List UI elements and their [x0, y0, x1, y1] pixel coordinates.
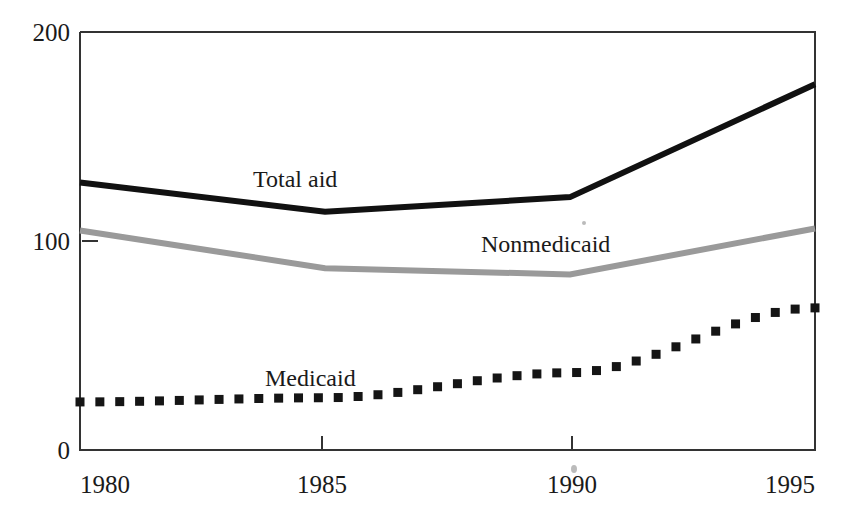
- medicaid-dot: [274, 394, 283, 403]
- medicaid-dot: [592, 366, 601, 375]
- medicaid-dot: [155, 396, 164, 405]
- series-label-nonmedicaid: Nonmedicaid: [481, 231, 610, 257]
- medicaid-dot: [135, 397, 144, 406]
- medicaid-dot: [493, 374, 502, 383]
- series-label-total-aid: Total aid: [253, 166, 337, 192]
- x-axis-ticks: [322, 436, 572, 450]
- medicaid-dot: [393, 388, 402, 397]
- medicaid-dot: [453, 379, 462, 388]
- x-axis-label-1995: 1995: [765, 471, 815, 498]
- series-label-medicaid: Medicaid: [265, 365, 356, 391]
- medicaid-dot: [771, 308, 780, 317]
- medicaid-dot: [234, 394, 243, 403]
- y-axis-label-0: 0: [58, 437, 71, 464]
- medicaid-dot: [195, 395, 204, 404]
- medicaid-dot: [612, 362, 621, 371]
- medicaid-dot: [552, 368, 561, 377]
- series-medicaid: [76, 303, 820, 406]
- series-total-aid-line: [80, 84, 815, 211]
- medicaid-dot: [751, 313, 760, 322]
- y-axis-label-200: 200: [33, 19, 71, 46]
- medicaid-dot: [115, 397, 124, 406]
- medicaid-dot: [334, 393, 343, 402]
- medicaid-dot: [294, 393, 303, 402]
- medicaid-dot: [314, 393, 323, 402]
- y-axis-label-100: 100: [33, 228, 71, 255]
- medicaid-dot: [572, 368, 581, 377]
- medicaid-dot: [433, 382, 442, 391]
- medicaid-dot: [691, 334, 700, 343]
- scan-speck: [571, 465, 577, 473]
- medicaid-dot: [373, 390, 382, 399]
- medicaid-dot: [254, 394, 263, 403]
- medicaid-dot: [731, 319, 740, 328]
- medicaid-dot: [671, 342, 680, 351]
- medicaid-dot: [532, 369, 541, 378]
- x-axis-label-1980: 1980: [80, 471, 130, 498]
- medicaid-dot: [473, 376, 482, 385]
- medicaid-dot: [632, 357, 641, 366]
- medicaid-dot: [76, 397, 85, 406]
- medicaid-dot: [175, 396, 184, 405]
- x-axis-label-1990: 1990: [547, 471, 597, 498]
- medicaid-dot: [513, 371, 522, 380]
- medicaid-dot: [95, 397, 104, 406]
- scan-speck: [582, 221, 586, 225]
- line-chart: Total aid Nonmedicaid Medicaid 200 100 0…: [0, 0, 852, 516]
- medicaid-dot: [413, 385, 422, 394]
- medicaid-dot: [711, 327, 720, 336]
- medicaid-dot: [652, 350, 661, 359]
- medicaid-dot: [354, 392, 363, 401]
- medicaid-dot: [791, 305, 800, 314]
- medicaid-dot: [811, 303, 820, 312]
- axis-frame-path: [80, 32, 815, 450]
- plot-frame: [80, 32, 815, 450]
- series-nonmedicaid-line: [80, 228, 815, 274]
- chart-container: Total aid Nonmedicaid Medicaid 200 100 0…: [0, 0, 852, 516]
- x-axis-label-1985: 1985: [297, 471, 347, 498]
- medicaid-dot: [215, 395, 224, 404]
